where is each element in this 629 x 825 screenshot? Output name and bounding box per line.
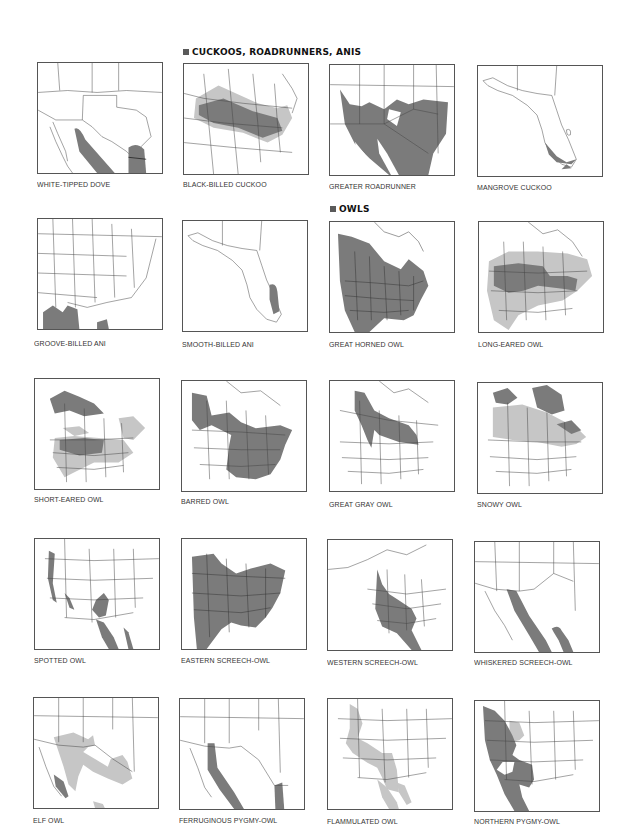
map-label: GROOVE-BILLED ANI xyxy=(34,339,106,348)
range-map-groove-billed-ani xyxy=(37,218,163,330)
map-label: ELF OWL xyxy=(33,816,64,825)
range-map-barred-owl xyxy=(181,380,307,492)
range-map-black-billed-cuckoo xyxy=(183,63,309,175)
range-map-short-eared-owl xyxy=(34,378,160,490)
range-map-spotted-owl xyxy=(34,538,160,650)
section-header-cuckoos: CUCKOOS, ROADRUNNERS, ANIS xyxy=(183,47,361,57)
map-label: WHITE-TIPPED DOVE xyxy=(37,180,110,189)
map-texas-mexico-icon xyxy=(38,63,162,173)
range-map-mangrove-cuckoo xyxy=(477,65,603,177)
range-map-smooth-billed-ani xyxy=(182,220,308,332)
range-map-snowy-owl xyxy=(477,382,603,494)
map-label: NORTHERN PYGMY-OWL xyxy=(474,817,560,825)
range-map-northern-pygmy-owl xyxy=(474,700,600,812)
section-marker-icon xyxy=(330,206,336,212)
range-map-elf-owl xyxy=(33,697,159,809)
map-label: SNOWY OWL xyxy=(477,500,522,509)
map-label: MANGROVE CUCKOO xyxy=(477,183,552,192)
map-label: EASTERN SCREECH-OWL xyxy=(181,656,270,665)
range-map-great-gray-owl xyxy=(329,380,455,492)
map-label: GREATER ROADRUNNER xyxy=(329,182,416,191)
map-label: LONG-EARED OWL xyxy=(478,340,543,349)
range-map-great-horned-owl xyxy=(329,221,455,333)
section-title: CUCKOOS, ROADRUNNERS, ANIS xyxy=(192,47,361,57)
map-label: GREAT HORNED OWL xyxy=(329,340,404,349)
map-label: WESTERN SCREECH-OWL xyxy=(327,658,418,667)
range-map-long-eared-owl xyxy=(478,221,604,333)
map-label: GREAT GRAY OWL xyxy=(329,500,393,509)
range-map-flammulated-owl xyxy=(327,698,453,810)
section-header-owls: OWLS xyxy=(330,204,370,214)
range-map-white-tipped-dove xyxy=(37,62,163,174)
range-map-eastern-screech-owl xyxy=(181,538,307,650)
map-label: BARRED OWL xyxy=(181,497,229,506)
map-label: FLAMMULATED OWL xyxy=(327,817,398,825)
map-label: SPOTTED OWL xyxy=(34,656,86,665)
range-map-ferruginous-pygmy-owl xyxy=(179,698,305,810)
map-label: BLACK-BILLED CUCKOO xyxy=(183,180,267,189)
map-label: SHORT-EARED OWL xyxy=(34,495,104,504)
range-map-western-screech-owl xyxy=(327,539,453,651)
map-label: SMOOTH-BILLED ANI xyxy=(182,340,254,349)
section-title: OWLS xyxy=(339,204,370,214)
range-map-whiskered-screech-owl xyxy=(474,541,600,653)
section-marker-icon xyxy=(183,49,189,55)
range-map-greater-roadrunner xyxy=(329,64,455,176)
map-label: FERRUGINOUS PYGMY-OWL xyxy=(179,816,277,825)
map-label: WHISKERED SCREECH-OWL xyxy=(474,658,573,667)
